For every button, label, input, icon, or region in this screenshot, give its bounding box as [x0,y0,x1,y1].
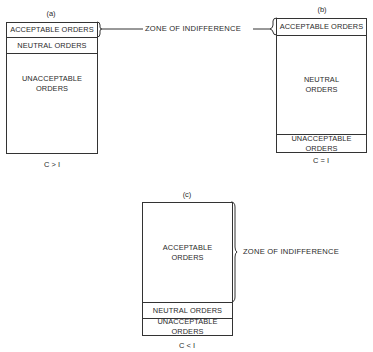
diagram-c-condition: C < I [167,341,207,350]
diagram-a-neutral: NEUTRAL ORDERS [7,38,97,54]
diagram-b-condition: C = I [301,156,341,165]
diagram-b-acceptable: ACCEPTABLE ORDERS [277,19,366,36]
zone-of-indifference-label: ZONE OF INDIFFERENCE [145,24,241,33]
diagram-a: ACCEPTABLE ORDERS NEUTRAL ORDERS UNACCEP… [6,22,98,154]
diagram-a-condition: C > I [32,160,72,169]
diagram-a-acceptable: ACCEPTABLE ORDERS [7,23,97,38]
zone-of-indifference-c-label: ZONE OF INDIFFERENCE [243,247,339,256]
diagram-a-unacceptable: UNACCEPTABLE ORDERS [7,54,97,114]
diagram-b: ACCEPTABLE ORDERS NEUTRAL ORDERS UNACCEP… [276,18,367,153]
diagram-a-label: (a) [31,9,71,18]
diagram-b-neutral: NEUTRAL ORDERS [277,36,366,135]
diagram-c-unacceptable: UNACCEPTABLE ORDERS [143,319,232,335]
diagram-b-label: (b) [302,5,342,14]
diagram-c-acceptable: ACCEPTABLE ORDERS [143,203,232,303]
diagram-c-label: (c) [167,190,207,199]
diagram-b-unacceptable: UNACCEPTABLE ORDERS [277,135,366,152]
diagram-c: ACCEPTABLE ORDERS NEUTRAL ORDERS UNACCEP… [142,202,233,336]
